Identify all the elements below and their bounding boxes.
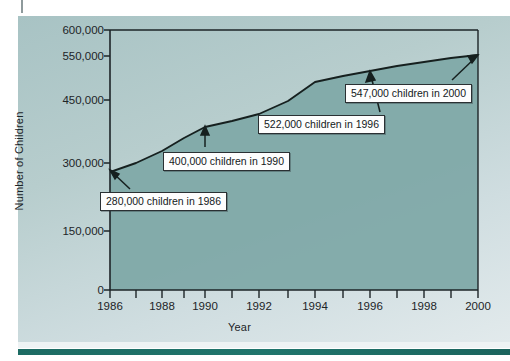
y-tick-label: 150,000 — [62, 225, 104, 237]
y-tick-label: 0 — [98, 284, 104, 296]
footer-rule — [18, 349, 510, 355]
x-tick-label: 1996 — [347, 300, 393, 312]
x-tick-label: 1994 — [292, 300, 338, 312]
x-tick-label: 1998 — [401, 300, 447, 312]
x-tick-label: 1988 — [139, 300, 185, 312]
figure: 600,000 550,000 450,000 300,000 150,000 … — [0, 0, 510, 361]
y-axis-ticks — [104, 30, 110, 290]
y-tick-label: 450,000 — [62, 94, 104, 106]
x-axis-title: Year — [228, 321, 251, 333]
x-axis-ticks — [110, 290, 478, 298]
annotation-callout-1990: 400,000 children in 1990 — [163, 152, 290, 171]
annotation-callout-2000: 547,000 children in 2000 — [345, 84, 472, 103]
y-tick-label: 300,000 — [62, 157, 104, 169]
footer-strip — [18, 342, 510, 348]
y-axis-title: Number of Children — [13, 96, 25, 226]
x-tick-label: 2000 — [455, 300, 501, 312]
y-tick-label: 600,000 — [62, 24, 104, 36]
annotation-callout-1996: 522,000 children in 1996 — [258, 115, 385, 134]
x-tick-label: 1990 — [182, 300, 228, 312]
x-tick-label: 1992 — [236, 300, 282, 312]
y-tick-label: 550,000 — [62, 50, 104, 62]
annotation-callout-1986: 280,000 children in 1986 — [100, 192, 227, 211]
x-tick-label: 1986 — [87, 300, 133, 312]
